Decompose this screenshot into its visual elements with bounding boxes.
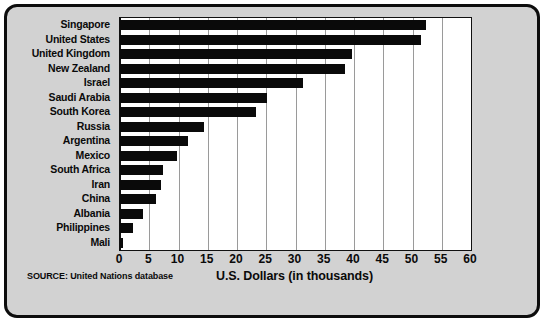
bar-row [120,120,471,135]
bar [120,165,163,175]
bar-row [120,91,471,106]
bar-row [120,192,471,207]
x-tick-label: 15 [200,252,213,266]
bar-rows [120,18,471,250]
category-label: Albania [7,206,115,221]
x-tick-label: 40 [346,252,359,266]
bar-row [120,207,471,222]
bar [120,209,143,219]
x-tick-label: 0 [116,252,123,266]
bar-row [120,47,471,62]
category-label: South Africa [7,162,115,177]
category-label: Israel [7,75,115,90]
x-tick-label: 10 [171,252,184,266]
x-tick-label: 35 [317,252,330,266]
category-label: United States [7,32,115,47]
bar-row [120,178,471,193]
category-label: Iran [7,177,115,192]
bar [120,20,426,30]
bar [120,49,352,59]
bar [120,238,123,248]
plot-area [119,17,472,251]
bar [120,93,267,103]
bar [120,78,303,88]
category-label: Russia [7,119,115,134]
bar [120,151,177,161]
chart-inner: SingaporeUnited StatesUnited KingdomNew … [7,7,537,315]
bar-row [120,134,471,149]
category-label: China [7,191,115,206]
bar-row [120,163,471,178]
bar-row [120,62,471,77]
category-label: Argentina [7,133,115,148]
x-tick-label: 45 [376,252,389,266]
bar [120,64,345,74]
x-tick-label: 5 [145,252,152,266]
category-label: United Kingdom [7,46,115,61]
x-tick-label: 60 [463,252,476,266]
bar [120,223,133,233]
category-axis-labels: SingaporeUnited StatesUnited KingdomNew … [7,17,115,249]
x-axis-tick-labels: 051015202530354045505560 [119,252,470,268]
category-label: New Zealand [7,61,115,76]
bar-row [120,18,471,33]
source-note: SOURCE: United Nations database [27,271,173,281]
bar [120,35,421,45]
gridline-60 [471,18,472,250]
bar [120,194,156,204]
x-tick-label: 20 [229,252,242,266]
category-label: Mali [7,235,115,250]
category-label: Mexico [7,148,115,163]
bar [120,107,256,117]
bar [120,122,204,132]
bar-row [120,149,471,164]
bar-row [120,221,471,236]
category-label: South Korea [7,104,115,119]
x-tick-label: 55 [434,252,447,266]
bar-row [120,236,471,251]
x-tick-label: 25 [259,252,272,266]
x-tick-label: 30 [288,252,301,266]
category-label: Singapore [7,17,115,32]
chart-figure: SingaporeUnited StatesUnited KingdomNew … [4,4,540,318]
bar [120,180,161,190]
category-label: Philippines [7,220,115,235]
category-label: Saudi Arabia [7,90,115,105]
bar-row [120,33,471,48]
bar [120,136,188,146]
bar-row [120,105,471,120]
x-tick-label: 50 [405,252,418,266]
bar-row [120,76,471,91]
